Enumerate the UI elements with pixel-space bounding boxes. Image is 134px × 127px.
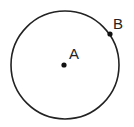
point-a-dot [61,62,66,67]
point-b-dot [107,31,112,36]
point-a-label: A [69,45,79,62]
circle-diagram: A B [0,0,134,127]
point-b-label: B [113,15,123,32]
